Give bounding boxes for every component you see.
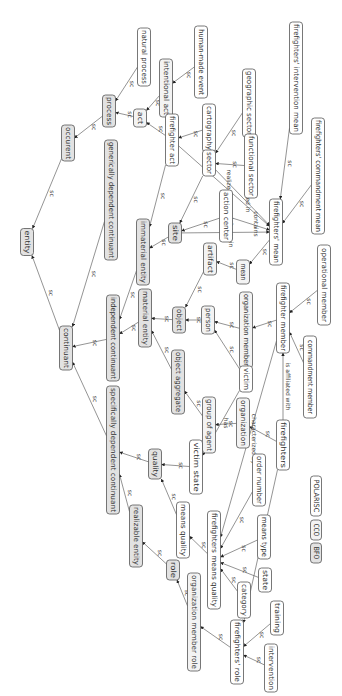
edge-label: sc <box>92 396 99 402</box>
edge-organization-member-to-person: sc <box>215 322 240 329</box>
node-victim: victim <box>240 366 253 392</box>
node-label: material entity <box>141 291 150 346</box>
edge-label: sc <box>287 160 294 166</box>
node-label: entity <box>23 231 32 255</box>
node-label: firefighters <box>279 422 288 468</box>
edge-line <box>73 221 105 326</box>
edge-firefighter-act-to-immaterial-entity: sc <box>150 165 167 227</box>
edge-quality-to-specifically-dependent-continuant: sc <box>120 452 149 462</box>
node-label: sector <box>205 152 214 174</box>
edge-action-center-to-site: sc <box>182 218 220 231</box>
node-functional-sector: functional sector <box>245 134 258 198</box>
edge-specifically-dependent-continuant-to-continuant: sc <box>73 362 107 436</box>
edge-line <box>221 563 259 578</box>
edge-label: sc <box>256 657 263 663</box>
node-mean: mean <box>237 260 250 284</box>
node-commandment-member: commandment member <box>304 336 317 418</box>
edge-continuant-to-entity: sc <box>32 256 60 331</box>
node-means-type: means type <box>258 515 271 559</box>
edge-natural-process-to-process: sc <box>116 67 138 101</box>
edge-firefighters-commandment-mean-to-firefighters-mean: sc <box>283 185 312 224</box>
node-label: object aggregate <box>174 352 183 413</box>
node-label: independent continuant <box>109 297 118 379</box>
node-label: occurent <box>64 127 73 159</box>
edge-firefighters-intervention-mean-to-firefighters-mean: sc <box>280 128 294 199</box>
edge-label: sc <box>92 340 99 346</box>
edge-label: sc <box>127 111 134 117</box>
edge-functional-sector-to-sector: sc <box>216 161 245 167</box>
edge-label: sc <box>131 325 138 331</box>
edge-label: sc <box>178 462 185 468</box>
node-label: immaterial entity <box>139 221 148 284</box>
node-intentional-act: intentional act <box>160 59 173 117</box>
node-label: means quality <box>179 504 188 557</box>
node-label: order number <box>255 456 264 504</box>
edge-operational-member-to-firefighter-member: sc <box>290 290 318 313</box>
edge-label: sc <box>91 124 98 130</box>
node-object-aggregate: object aggregate <box>172 350 185 414</box>
edge-firefighters-to-firefighter-member: is affiliated with <box>283 353 292 420</box>
node-label: object <box>175 309 184 331</box>
node-group-of-agent: group of agent <box>203 397 216 453</box>
edge-label: sc <box>91 271 98 277</box>
node-organization-member: organization member <box>240 292 253 368</box>
node-specifically-dependent-continuant: specifically dependent continuant <box>107 386 120 514</box>
node-label: quality <box>151 451 160 478</box>
node-entity: entity <box>21 229 34 256</box>
edge-label: sc <box>129 81 136 87</box>
edge-label: sc <box>157 550 164 556</box>
edge-firefighter-act-to-act: sc <box>147 122 166 135</box>
edge-label: sc <box>201 542 208 548</box>
edge-label: sc <box>232 161 239 167</box>
node-label: specifically dependent continuant <box>109 388 118 512</box>
edge-line <box>221 540 258 557</box>
edge-label: sc <box>186 72 193 78</box>
node-label: cartography <box>205 106 214 151</box>
node-occurent: occurent <box>62 125 75 161</box>
edge-label: sc <box>299 201 306 207</box>
edge-label: sc <box>136 454 143 460</box>
edge-label: sc <box>164 316 171 322</box>
edge-label: sc <box>161 239 168 245</box>
node-training: training <box>271 601 284 635</box>
edge-object-aggregate-to-material-entity: sc <box>152 331 172 370</box>
edge-line <box>182 218 220 231</box>
node-label: intentional act <box>162 61 171 115</box>
node-site: site <box>169 223 182 243</box>
edge-label: sc <box>127 490 134 496</box>
edge-label: sc <box>265 431 272 437</box>
edge-label: sc <box>259 632 266 638</box>
node-firefighters-intervention-mean: firefighters' intervention mean <box>290 22 303 134</box>
edge-act-to-process: sc <box>116 111 134 117</box>
node-material-entity: material entity <box>139 289 152 347</box>
edge-line <box>33 159 62 229</box>
node-label: action center <box>222 192 231 240</box>
node-label: mean <box>239 264 248 280</box>
node-label: category <box>240 584 249 617</box>
node-continuant: continuant <box>60 326 73 370</box>
edge-means-type-to-firefighters-means-quality: sc <box>221 540 258 557</box>
node-human-made-event: human-made event <box>195 26 208 98</box>
node-order-number: order number <box>253 454 266 506</box>
node-label: operational member <box>320 248 329 322</box>
edge-independent-continuant-to-continuant: sc <box>73 339 107 346</box>
ontology-graph-svg: scscscscscscscscscscscscscscscscscscscsc… <box>0 0 342 696</box>
edge-category-to-firefighters-means-quality: sc <box>221 569 239 592</box>
node-geographic-sector: geographic sector <box>243 69 256 137</box>
node-label: organization member <box>242 294 251 366</box>
edge-label: sc <box>193 196 200 202</box>
edge-line <box>120 452 149 462</box>
edge-cartography-to-firefighter-act: sc <box>179 130 203 138</box>
node-immaterial-entity: immaterial entity <box>137 219 150 285</box>
ontology-diagram: scscscscscscscscscscscscscscscscscscscsc… <box>0 0 342 696</box>
edge-label: sc <box>306 298 313 304</box>
nodes-layer: entityoccurentprocessnatural processacti… <box>21 22 331 692</box>
node-label: CCO <box>312 524 321 537</box>
edge-label: sc <box>203 221 210 227</box>
edge-line <box>73 362 107 436</box>
edge-label: sc <box>231 577 238 583</box>
node-label: natural process <box>140 30 149 84</box>
edge-firefighter-member-to-organization-member: sc <box>253 320 277 328</box>
legend-item-polarisc: POLARISC <box>311 476 322 516</box>
edge-immaterial-entity-to-independent-continuant: sc <box>120 271 138 320</box>
